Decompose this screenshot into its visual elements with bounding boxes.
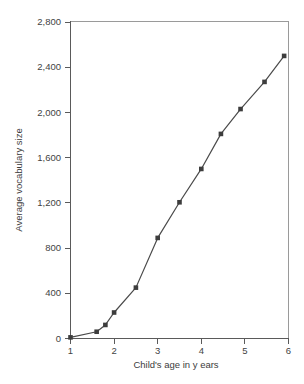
vocabulary-markers — [68, 54, 286, 340]
x-tick-label-5: 5 — [242, 345, 247, 356]
y-tick-marks — [65, 22, 71, 339]
data-point — [155, 236, 160, 241]
figure-container: 0 400 800 1,200 1,600 2,000 2,400 2,800 … — [0, 0, 304, 384]
data-point — [282, 54, 287, 59]
y-tick-labels: 0 400 800 1,200 1,600 2,000 2,400 2,800 — [37, 16, 61, 344]
x-tick-label-6: 6 — [286, 345, 291, 356]
y-tick-label-400: 400 — [45, 287, 61, 298]
x-tick-labels: 1 2 3 4 5 6 — [68, 345, 291, 356]
y-tick-label-1600: 1,600 — [37, 152, 61, 163]
plot-frame — [70, 22, 289, 339]
x-tick-label-2: 2 — [111, 345, 116, 356]
data-point — [219, 132, 224, 137]
vocabulary-line — [71, 56, 285, 337]
data-point — [262, 80, 267, 85]
y-tick-label-2800: 2,800 — [37, 16, 61, 27]
data-point — [238, 107, 243, 112]
y-tick-label-1200: 1,200 — [37, 197, 61, 208]
data-point — [112, 310, 117, 315]
x-tick-label-3: 3 — [155, 345, 160, 356]
data-series-group — [68, 54, 286, 340]
y-tick-label-0: 0 — [56, 333, 61, 344]
data-point — [103, 323, 108, 328]
x-axis: 1 2 3 4 5 6 Child's age in y ears — [68, 339, 291, 371]
data-point — [94, 329, 99, 334]
vocabulary-growth-line-chart: 0 400 800 1,200 1,600 2,000 2,400 2,800 … — [0, 0, 304, 384]
data-point — [134, 285, 139, 290]
y-tick-label-800: 800 — [45, 242, 61, 253]
data-point — [68, 335, 73, 340]
x-axis-title: Child's age in y ears — [133, 359, 218, 370]
x-tick-label-4: 4 — [199, 345, 204, 356]
data-point — [199, 167, 204, 172]
x-tick-marks — [71, 339, 289, 345]
y-axis: 0 400 800 1,200 1,600 2,000 2,400 2,800 … — [13, 16, 71, 344]
y-tick-label-2000: 2,000 — [37, 107, 61, 118]
y-axis-title: Average vocabulary size — [13, 128, 24, 231]
y-tick-label-2400: 2,400 — [37, 61, 61, 72]
data-point — [177, 200, 182, 205]
x-tick-label-1: 1 — [68, 345, 73, 356]
